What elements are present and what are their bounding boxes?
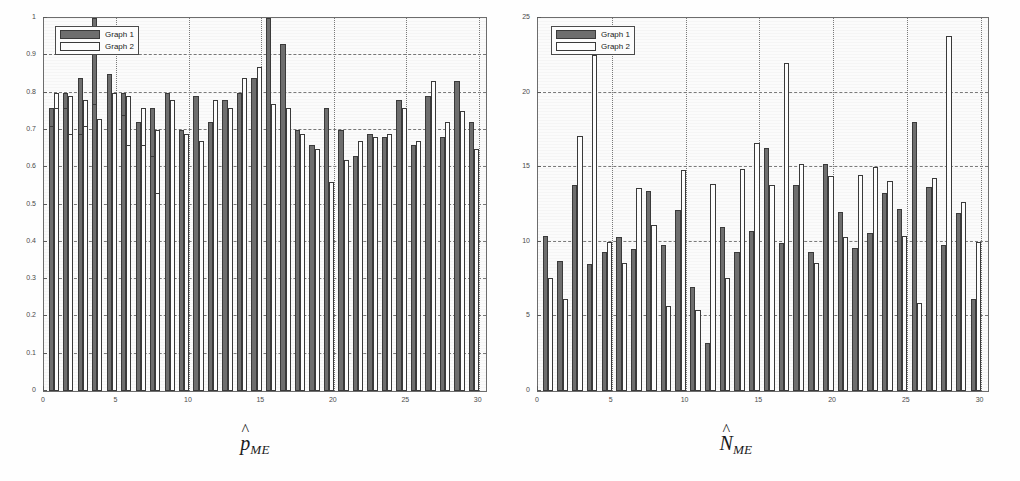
caption-symbol-n: ^N xyxy=(720,432,733,455)
bar-graph-2 xyxy=(577,136,582,391)
x-tick-label: 5 xyxy=(100,396,130,404)
bar-graph-1 xyxy=(897,209,902,391)
bar-graph-1 xyxy=(808,252,813,391)
panel-p-hat-me: 00.10.20.30.40.50.60.70.80.91 0510152025… xyxy=(0,0,510,481)
y-tick-label: 0 xyxy=(500,386,530,394)
y-tick-mark xyxy=(537,390,541,391)
y-tick-label: 0.6 xyxy=(6,162,36,170)
bar-graph-1 xyxy=(469,122,474,391)
bar-graph-2 xyxy=(300,134,305,391)
bar-graph-2 xyxy=(112,93,117,391)
y-tick-label: 0.7 xyxy=(6,125,36,133)
caption-subscript: ME xyxy=(733,442,752,457)
bar-graph-1 xyxy=(912,122,917,391)
x-tick-label: 30 xyxy=(463,396,493,404)
legend-entry-graph2[interactable]: Graph 2 xyxy=(60,42,134,51)
caption-subscript: ME xyxy=(250,442,269,457)
figure-root: 00.10.20.30.40.50.60.70.80.91 0510152025… xyxy=(0,0,1020,481)
y-tick-label: 1 xyxy=(6,13,36,21)
bar-graph-1 xyxy=(705,343,710,391)
bar-graph-2 xyxy=(681,170,686,391)
bar-graph-2 xyxy=(460,111,465,391)
x-tick-label: 15 xyxy=(245,396,275,404)
bar-graph-2 xyxy=(754,143,759,391)
bar-graph-1 xyxy=(779,243,784,391)
legend-label-graph2: Graph 2 xyxy=(601,42,630,51)
legend-swatch-graph2 xyxy=(60,42,100,51)
legend-p-hat-me[interactable]: Graph 1 Graph 2 xyxy=(55,26,139,55)
bar-graph-1 xyxy=(440,137,445,391)
bar-graph-2 xyxy=(710,184,715,391)
bar-graph-2 xyxy=(474,149,479,391)
bar-graph-2 xyxy=(387,134,392,391)
x-tick-label: 30 xyxy=(965,396,995,404)
bar-graph-1 xyxy=(720,227,725,391)
legend-entry-graph1[interactable]: Graph 1 xyxy=(556,30,630,39)
bar-graph-1 xyxy=(353,156,358,391)
bar-graph-1 xyxy=(734,252,739,391)
bar-graph-2 xyxy=(445,122,450,391)
legend-entry-graph1[interactable]: Graph 1 xyxy=(60,30,134,39)
bar-graph-2 xyxy=(257,67,262,392)
bar-graph-1 xyxy=(838,212,843,391)
bar-graph-1 xyxy=(557,261,562,391)
bar-graph-2 xyxy=(242,78,247,391)
bar-graph-1 xyxy=(237,93,242,391)
y-tick-mark xyxy=(43,390,47,391)
legend-n-hat-me[interactable]: Graph 1 Graph 2 xyxy=(551,26,635,55)
bar-graph-1 xyxy=(793,185,798,391)
legend-entry-graph2[interactable]: Graph 2 xyxy=(556,42,630,51)
bar-graph-1 xyxy=(107,74,112,391)
bar-graph-2 xyxy=(843,237,848,391)
bar-graph-2 xyxy=(286,108,291,391)
bar-graph-1 xyxy=(309,145,314,391)
bar-graph-2 xyxy=(725,278,730,391)
bar-graph-1 xyxy=(764,148,769,391)
x-tick-label: 25 xyxy=(891,396,921,404)
x-tick-label: 10 xyxy=(173,396,203,404)
plot-p-hat-me: 00.10.20.30.40.50.60.70.80.91 0510152025… xyxy=(43,17,487,392)
bar-graph-1 xyxy=(121,115,126,391)
bar-graph-2 xyxy=(416,141,421,391)
bar-graph-2 xyxy=(68,134,73,391)
bar-graph-2 xyxy=(155,193,160,391)
bar-graph-1 xyxy=(616,237,621,391)
bar-graph-1 xyxy=(92,104,97,391)
bar-graph-2 xyxy=(358,141,363,391)
bar-graph-2 xyxy=(695,310,700,391)
bar-graph-2 xyxy=(666,306,671,391)
bar-graph-2 xyxy=(961,202,966,391)
bar-graph-1 xyxy=(602,252,607,391)
y-tick-label: 0.1 xyxy=(6,349,36,357)
bar-graph-2 xyxy=(607,242,612,391)
legend-swatch-graph1 xyxy=(60,30,100,39)
legend-label-graph1: Graph 1 xyxy=(105,30,134,39)
bar-graph-1 xyxy=(749,231,754,391)
y-tick-label: 20 xyxy=(500,88,530,96)
bar-graph-1 xyxy=(411,145,416,391)
bar-graph-1 xyxy=(882,193,887,391)
x-tick-mark xyxy=(537,386,538,390)
bar-graph-1 xyxy=(136,122,141,391)
caption-p-hat-me: ^pME xyxy=(0,432,510,458)
bar-graph-2 xyxy=(651,225,656,391)
bar-graph-1 xyxy=(382,137,387,391)
bar-graph-1 xyxy=(324,108,329,391)
legend-swatch-graph2 xyxy=(556,42,596,51)
bar-graph-2 xyxy=(858,175,863,391)
bar-graph-1 xyxy=(543,236,548,391)
bar-graph-1 xyxy=(78,134,83,391)
bar-graph-1 xyxy=(867,233,872,391)
x-tick-label: 20 xyxy=(817,396,847,404)
bar-graph-2 xyxy=(828,176,833,391)
y-tick-label: 10 xyxy=(500,237,530,245)
bar-graph-2 xyxy=(917,303,922,391)
bar-graph-1 xyxy=(926,187,931,391)
bar-graph-1 xyxy=(367,134,372,391)
plot-n-hat-me: 0510152025 051015202530 Graph 1 Graph 2 xyxy=(537,17,989,392)
bar-graph-2 xyxy=(902,236,907,391)
bar-graph-1 xyxy=(295,130,300,391)
bar-graph-1 xyxy=(852,248,857,391)
caption-hat-accent: ^ xyxy=(720,422,733,438)
y-tick-label: 0.5 xyxy=(6,200,36,208)
